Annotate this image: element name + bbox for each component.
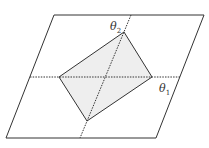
- diagram-canvas: θ2 θ1: [0, 0, 209, 148]
- theta-2-label: θ2: [110, 20, 121, 35]
- theta-1-label: θ1: [159, 82, 170, 97]
